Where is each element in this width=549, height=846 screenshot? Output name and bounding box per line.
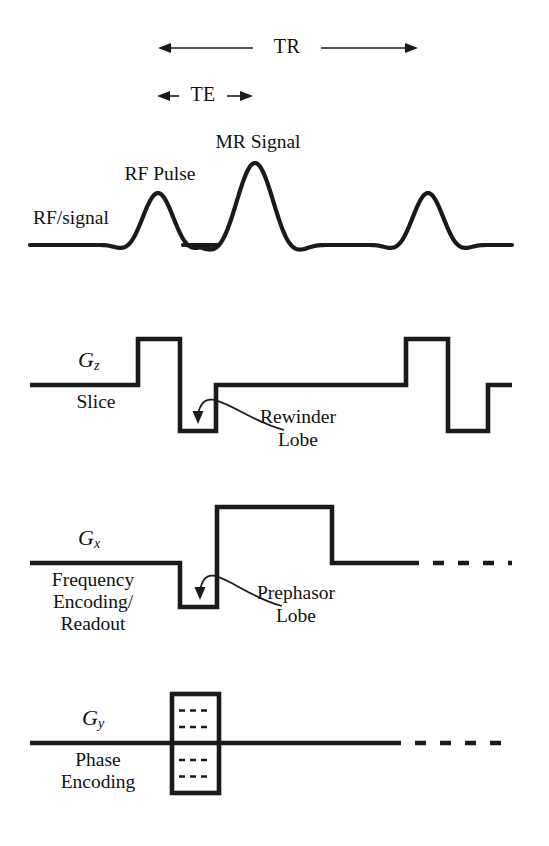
- rf-pulse-annotation: RF Pulse: [125, 163, 196, 185]
- gx-sub-line1: Frequency: [52, 569, 134, 591]
- gx-sub-label: Frequency Encoding/ Readout: [52, 569, 134, 636]
- gx-axis-letter: G: [78, 525, 94, 550]
- waveforms-group: [30, 163, 512, 793]
- prephasor-lobe-annotation: Prephasor Lobe: [257, 581, 335, 628]
- prephasor-lobe-line2: Lobe: [257, 604, 335, 627]
- timing-arrowhead-left-te: [157, 91, 170, 101]
- gy-axis-subscript: y: [98, 715, 104, 731]
- timing-arrowhead-right-te: [240, 91, 253, 101]
- gy-sub-label: Phase Encoding: [61, 749, 136, 793]
- prephasor-callout-arrowhead: [195, 587, 206, 600]
- mr-signal-annotation: MR Signal: [215, 131, 300, 153]
- gz-axis-subscript: z: [94, 357, 99, 373]
- prephasor-lobe-line1: Prephasor: [257, 581, 335, 604]
- rewinder-lobe-line1: Rewinder: [260, 405, 336, 428]
- rewinder-lobe-line2: Lobe: [260, 428, 336, 451]
- timing-arrowhead-left-tr: [158, 43, 171, 53]
- gy-sub-line2: Encoding: [61, 771, 136, 793]
- gx-axis-subscript: x: [94, 535, 100, 551]
- timing-arrowhead-right-tr: [405, 43, 418, 53]
- gy-sub-line1: Phase: [61, 749, 136, 771]
- tr-label: TR: [274, 35, 300, 58]
- rewinder-lobe-annotation: Rewinder Lobe: [260, 405, 336, 452]
- gy-axis-letter: G: [82, 705, 98, 730]
- gz-sub-label: Slice: [77, 391, 116, 413]
- gz-axis-letter: G: [78, 347, 94, 372]
- gx-axis-label: Gx: [78, 525, 100, 551]
- rewinder-callout-arrowhead: [193, 411, 204, 424]
- gx-sub-line3: Readout: [52, 613, 134, 635]
- gx-sub-line2: Encoding/: [52, 591, 134, 613]
- gy-axis-label: Gy: [82, 705, 104, 731]
- rf-signal-axis-label: RF/signal: [33, 207, 109, 229]
- te-label: TE: [190, 83, 215, 106]
- pulse-sequence-diagram: TR TE RF/signal RF Pulse MR Signal Gz Sl…: [0, 0, 549, 846]
- gz-axis-label: Gz: [78, 347, 99, 373]
